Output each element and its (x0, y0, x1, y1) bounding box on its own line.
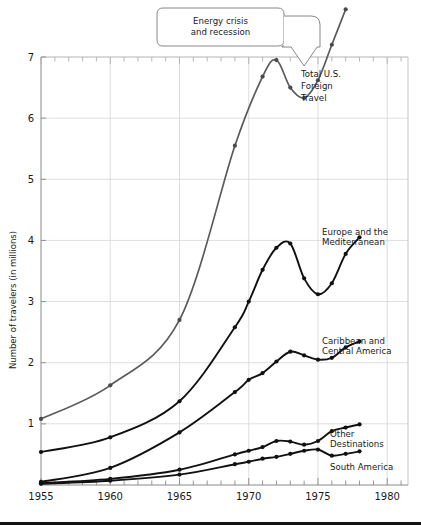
data-point (316, 292, 320, 296)
data-point (316, 447, 320, 451)
data-point (260, 268, 264, 272)
data-point (288, 241, 292, 245)
x-tick-label-1975: 1975 (305, 491, 330, 502)
series-label-3: OtherDestinations (330, 429, 384, 449)
data-point (302, 443, 306, 447)
y-axis-tick-labels: 1234567 (28, 52, 34, 430)
data-point (108, 383, 112, 387)
data-point (260, 457, 264, 461)
data-point (39, 417, 43, 421)
series-line-1 (41, 237, 360, 452)
series-label-line: Europe and the (322, 227, 388, 237)
chart-container: 1234567 195519601965197019751980 Number … (0, 0, 421, 525)
x-tick-label-1980: 1980 (374, 491, 399, 502)
series-label-line: Caribbean and (322, 336, 385, 346)
data-point (357, 449, 361, 453)
data-point (274, 455, 278, 459)
series-label-0: Total U.S.ForeignTravel (300, 69, 341, 103)
data-point (302, 449, 306, 453)
data-point (330, 454, 334, 458)
y-axis-title: Number of travelers (in millions) (8, 231, 18, 369)
series-label-line: Travel (300, 93, 327, 103)
series-label-line: Other (330, 429, 355, 439)
data-point (316, 358, 320, 362)
data-point (344, 252, 348, 256)
data-point (288, 350, 292, 354)
data-point (39, 450, 43, 454)
data-point (274, 359, 278, 363)
y-tick-label-6: 6 (28, 113, 34, 124)
series-label-4: South America (330, 462, 393, 472)
callout-text-line: and recession (191, 27, 251, 37)
data-point (302, 353, 306, 357)
series-labels: Total U.S.ForeignTravelEurope and theMed… (300, 69, 393, 472)
y-tick-label-5: 5 (28, 174, 34, 185)
series-label-line: Total U.S. (300, 69, 341, 79)
series-line-4 (41, 449, 360, 483)
data-point (108, 479, 112, 483)
y-tick-label-1: 1 (28, 418, 34, 429)
data-point (177, 318, 181, 322)
callout-text: Energy crisisand recession (191, 16, 251, 37)
series-label-line: Foreign (301, 81, 333, 91)
data-point (247, 449, 251, 453)
data-point (177, 399, 181, 403)
data-point (247, 378, 251, 382)
data-point (39, 482, 43, 486)
axis-ticks (41, 57, 401, 485)
series-label-1: Europe and theMediterranean (322, 227, 388, 247)
y-tick-label-2: 2 (28, 357, 34, 368)
data-point (260, 74, 264, 78)
data-point (330, 43, 334, 47)
y-tick-label-7: 7 (28, 52, 34, 63)
x-tick-label-1955: 1955 (28, 491, 53, 502)
data-point (233, 462, 237, 466)
series-label-line: Central America (322, 346, 391, 356)
data-point (344, 452, 348, 456)
travel-line-chart: 1234567 195519601965197019751980 Number … (0, 0, 421, 525)
data-point (260, 445, 264, 449)
data-point (108, 466, 112, 470)
data-point (260, 371, 264, 375)
x-tick-label-1970: 1970 (236, 491, 261, 502)
data-point (233, 390, 237, 394)
callout-text-line: Energy crisis (193, 16, 248, 26)
y-tick-label-3: 3 (28, 296, 34, 307)
x-tick-label-1960: 1960 (98, 491, 123, 502)
data-point (330, 281, 334, 285)
data-point (274, 58, 278, 62)
gridlines (41, 57, 408, 485)
x-tick-label-1965: 1965 (167, 491, 192, 502)
x-axis-tick-labels: 195519601965197019751980 (28, 491, 400, 502)
data-point (233, 144, 237, 148)
data-point (288, 85, 292, 89)
data-point (357, 422, 361, 426)
data-point (316, 439, 320, 443)
data-point (330, 356, 334, 360)
series-label-line: South America (330, 462, 393, 472)
data-point (247, 299, 251, 303)
plot-frame (41, 57, 408, 485)
data-point (177, 430, 181, 434)
series-label-2: Caribbean andCentral America (322, 336, 391, 356)
data-point (288, 439, 292, 443)
data-point (274, 246, 278, 250)
series-label-line: Mediterranean (322, 237, 385, 247)
data-point (233, 325, 237, 329)
series-label-line: Destinations (330, 439, 384, 449)
series-line-0 (41, 9, 346, 419)
data-point (302, 276, 306, 280)
y-tick-label-4: 4 (28, 235, 34, 246)
callout-arrow (282, 16, 320, 66)
data-point (177, 468, 181, 472)
data-point (177, 473, 181, 477)
data-point (233, 452, 237, 456)
data-point (344, 7, 348, 11)
data-point (288, 452, 292, 456)
data-point (108, 435, 112, 439)
data-point (274, 439, 278, 443)
data-point (247, 460, 251, 464)
series-markers (39, 7, 362, 486)
